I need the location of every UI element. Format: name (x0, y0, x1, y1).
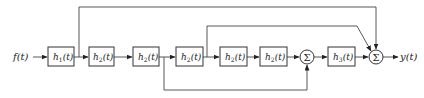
summer-2: Σ (369, 50, 383, 64)
svg-text:h2(t): h2(t) (138, 52, 159, 63)
input-signal-label: f(t) (12, 51, 29, 62)
svg-text:h2(t): h2(t) (93, 52, 114, 63)
svg-text:h3(t): h3(t) (333, 52, 354, 63)
sigma-icon: Σ (303, 52, 310, 63)
sigma-icon: Σ (372, 52, 379, 63)
block-h2-4: h2(t) (220, 47, 247, 66)
svg-text:h2(t): h2(t) (225, 52, 246, 63)
block-h2-2: h2(t) (133, 47, 159, 66)
svg-text:h1(t): h1(t) (53, 52, 74, 63)
block-h2-5: h2(t) (260, 47, 287, 66)
block-h3: h3(t) (328, 47, 355, 66)
block-h1: h1(t) (48, 47, 74, 66)
block-diagram: f(t) h1(t) h2(t) h2(t) h2(t) h2(t) (0, 0, 424, 98)
block-h2-3: h2(t) (176, 47, 203, 66)
summer-1: Σ (300, 50, 314, 64)
block-h2-1: h2(t) (89, 47, 114, 66)
output-signal-label: y(t) (399, 51, 418, 62)
svg-text:h2(t): h2(t) (265, 52, 286, 63)
svg-text:h2(t): h2(t) (181, 52, 202, 63)
